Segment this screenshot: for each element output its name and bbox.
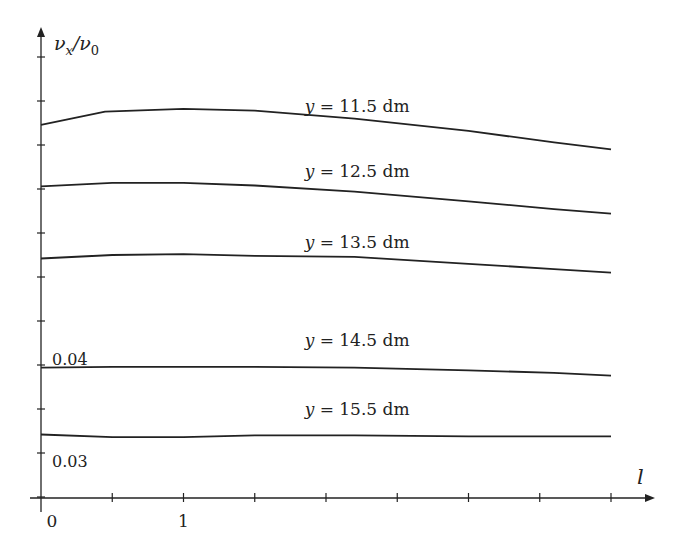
series-label-5: y = 15.5 dm <box>304 399 410 419</box>
x-axis-arrow-icon <box>645 494 655 502</box>
y-axis-arrow-icon <box>37 27 45 37</box>
y-tick-label: 0.04 <box>52 350 88 369</box>
x-tick-label: 0 <box>47 511 58 531</box>
series-label-2: y = 12.5 dm <box>304 161 410 181</box>
series-line-2 <box>41 183 611 214</box>
series-label-3: y = 13.5 dm <box>304 232 410 252</box>
series-line-5 <box>41 435 611 438</box>
x-tick-label: 1 <box>178 511 189 531</box>
chart: 010.040.03lνx/ν0y = 11.5 dmy = 12.5 dmy … <box>0 0 678 552</box>
y-axis-label: νx/ν0 <box>54 32 99 58</box>
y-tick-label: 0.03 <box>52 452 88 471</box>
series-label-1: y = 11.5 dm <box>304 96 410 116</box>
series-label-4: y = 14.5 dm <box>304 330 410 350</box>
labels-group: 010.040.03lνx/ν0y = 11.5 dmy = 12.5 dmy … <box>47 32 644 531</box>
series-group <box>41 109 611 437</box>
series-line-3 <box>41 254 611 273</box>
series-line-4 <box>41 367 611 376</box>
x-axis-label: l <box>637 465 644 489</box>
